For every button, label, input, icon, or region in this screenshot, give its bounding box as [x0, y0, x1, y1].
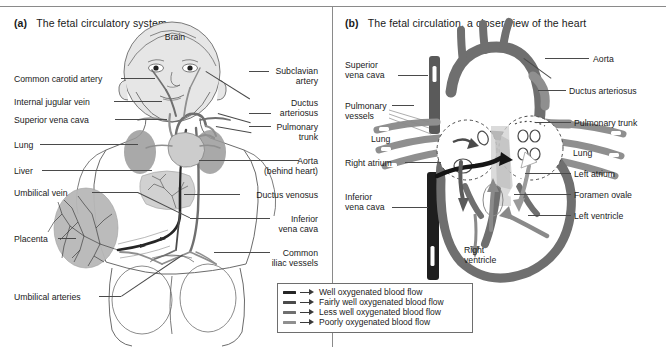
label-brain: Brain	[152, 32, 198, 42]
label-b-lung-left: Lung	[371, 134, 390, 144]
legend-label-less-well: Less well oxygenated blood flow	[319, 307, 441, 317]
leader-superior-vena-cava	[115, 119, 167, 120]
leader-aorta	[199, 160, 299, 161]
leader-subclavian-artery	[249, 71, 269, 72]
label-lung: Lung	[14, 140, 33, 150]
label-b-pulmonary-vessels-line2: vessels	[345, 111, 374, 121]
label-internal-jugular-vein: Internal jugular vein	[14, 97, 90, 107]
legend-label-well: Well oxygenated blood flow	[319, 287, 422, 297]
label-b-superior-vena-cava: Superior vena cava	[345, 60, 385, 81]
leader-ductus-venosus	[184, 194, 240, 195]
leader-pulmonary-trunk	[249, 126, 271, 127]
legend-row: Poorly oxygenated blood flow	[283, 317, 466, 327]
leader-umbilical-arteries	[99, 296, 121, 297]
label-b-ductus-arteriosus: Ductus arteriosus	[569, 86, 637, 96]
legend-arrow-icon	[300, 308, 315, 317]
label-common-iliac-vessels-line1: Common	[283, 248, 318, 258]
figure-fetal-circulation: (a) The fetal circulatory system	[0, 0, 666, 347]
label-b-right-ventricle-line1: Right	[464, 245, 484, 255]
label-b-foramen-ovale: Foramen ovale	[574, 190, 632, 200]
legend-swatch-poorly	[283, 321, 296, 324]
leader-placenta	[58, 238, 76, 239]
label-common-carotid-artery: Common carotid artery	[14, 74, 102, 84]
leader-b-inferior-vena-cava	[392, 207, 428, 208]
leader-b-pulmonary-vessels	[392, 105, 414, 106]
label-b-left-atrium: Left atrium	[574, 169, 615, 179]
leader-common-carotid-artery	[121, 78, 155, 79]
leader-b-aorta	[545, 58, 589, 59]
legend-label-fairly-well: Fairly well oxygenated blood flow	[319, 297, 444, 307]
label-subclavian-artery-line1: Subclavian	[275, 66, 318, 76]
leader-b-superior-vena-cava	[398, 75, 428, 76]
label-superior-vena-cava: Superior vena cava	[14, 115, 89, 125]
leader-b-left-ventricle	[528, 215, 571, 216]
label-b-superior-vena-cava-line1: Superior	[345, 60, 378, 70]
legend-label-poorly: Poorly oxygenated blood flow	[319, 317, 430, 327]
legend-swatch-less-well	[283, 311, 296, 314]
label-b-inferior-vena-cava-line1: Inferior	[345, 192, 372, 202]
leader-common-iliac-vessels	[214, 252, 270, 253]
legend-arrow-icon	[300, 298, 315, 307]
label-pulmonary-trunk-line1: Pulmonary	[276, 122, 318, 132]
leader-b-ductus-arteriosus	[538, 90, 566, 91]
leader-b-foramen-ovale	[514, 194, 571, 195]
legend-box: Well oxygenated blood flow Fairly well o…	[277, 283, 473, 333]
label-aorta-line1: Aorta	[297, 156, 318, 166]
label-umbilical-vein: Umbilical vein	[14, 188, 68, 198]
label-b-right-ventricle-line2: ventricle	[464, 255, 496, 265]
label-b-left-ventricle: Left ventricle	[574, 211, 623, 221]
leader-internal-jugular-vein	[114, 101, 162, 102]
label-ductus-arteriosus-line1: Ductus	[291, 98, 318, 108]
leader-lung	[40, 144, 138, 145]
label-b-pulmonary-vessels: Pulmonary vessels	[345, 101, 387, 122]
label-placenta: Placenta	[14, 234, 48, 244]
leader-b-pulmonary-trunk	[535, 122, 571, 123]
label-b-aorta: Aorta	[593, 54, 614, 64]
leader-liver	[42, 170, 152, 171]
label-ductus-arteriosus-line2: arteriosus	[280, 108, 318, 118]
label-b-lung-right: Lung	[573, 148, 592, 158]
legend-swatch-well	[283, 291, 296, 294]
leader-inferior-vena-cava	[190, 218, 270, 219]
label-inferior-vena-cava-line1: Inferior	[291, 214, 318, 224]
label-b-superior-vena-cava-line2: vena cava	[345, 70, 385, 80]
leader-b-left-atrium	[525, 173, 571, 174]
leader-b-right-atrium	[405, 162, 441, 163]
legend-row: Well oxygenated blood flow	[283, 287, 466, 297]
leader-umbilical-vein	[92, 192, 138, 193]
label-ductus-venosus: Ductus venosus	[204, 190, 318, 200]
label-b-inferior-vena-cava: Inferior vena cava	[345, 192, 385, 213]
label-pulmonary-trunk-line2: trunk	[299, 132, 318, 142]
legend-row: Fairly well oxygenated blood flow	[283, 297, 466, 307]
label-b-inferior-vena-cava-line2: vena cava	[345, 202, 385, 212]
legend-arrow-icon	[300, 288, 315, 297]
leader-ductus-arteriosus	[249, 113, 271, 114]
label-subclavian-artery: Subclavian artery	[214, 66, 318, 87]
label-common-iliac-vessels-line2: iliac vessels	[272, 258, 318, 268]
label-aorta-line2: (behind heart)	[264, 166, 318, 176]
label-liver: Liver	[14, 166, 33, 176]
label-subclavian-artery-line2: artery	[296, 76, 318, 86]
legend-row: Less well oxygenated blood flow	[283, 307, 466, 317]
label-b-right-atrium: Right atrium	[345, 158, 392, 168]
label-inferior-vena-cava-line2: vena cava	[278, 224, 318, 234]
label-b-pulmonary-trunk: Pulmonary trunk	[574, 118, 637, 128]
label-umbilical-arteries: Umbilical arteries	[14, 292, 81, 302]
label-b-pulmonary-vessels-line1: Pulmonary	[345, 101, 387, 111]
label-b-right-ventricle: Right ventricle	[464, 245, 496, 266]
legend-arrow-icon	[300, 318, 315, 327]
legend-swatch-fairly-well	[283, 301, 296, 304]
